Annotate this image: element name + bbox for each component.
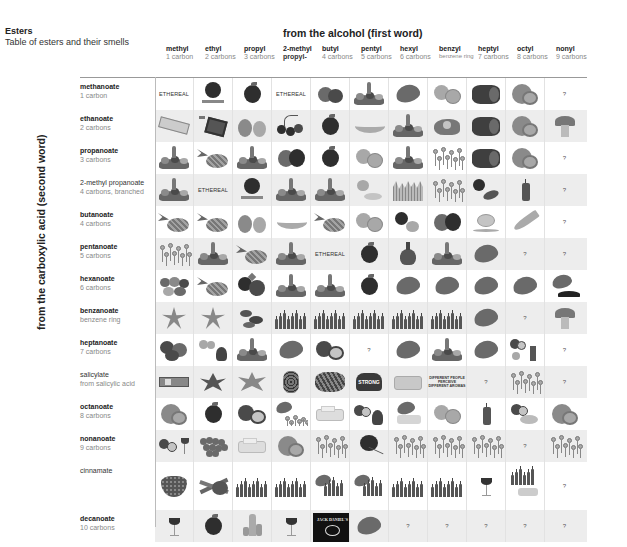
row-header: hexanoate6 carbons: [80, 270, 155, 302]
table-cell: [467, 430, 506, 462]
orange-icon: [508, 81, 542, 107]
apple-icon: [313, 145, 347, 171]
column-name: hexyl: [400, 45, 439, 53]
column-header-propyl: propyl3 carbons: [244, 45, 283, 75]
table-cell: [233, 430, 272, 462]
table-cell: [545, 398, 584, 430]
table-cell: [194, 366, 233, 398]
row-name: propanoate: [80, 146, 155, 155]
table-cell: [350, 174, 389, 206]
unknown-mark: ?: [367, 347, 370, 353]
flower-icon: [430, 113, 464, 139]
column-detail: 9 carbons: [556, 53, 595, 61]
bottles-icon: [430, 305, 464, 331]
column-axis-label: from the alcohol (first word): [283, 27, 422, 39]
table-cell: [233, 334, 272, 366]
peach-icon: [430, 81, 464, 107]
column-header-benzyl: benzylbenzene ring: [439, 45, 478, 75]
column-name: benzyl: [439, 45, 478, 53]
orange-icon: [274, 433, 308, 459]
plum-icon: [274, 145, 308, 171]
table-row-2-methyl-propanoate: 2-methyl propanoate4 carbons, branchedET…: [80, 174, 587, 206]
banana-icon: [352, 113, 386, 139]
pineapple-icon: [196, 209, 230, 235]
column-detail: benzene ring: [439, 53, 478, 60]
leaf-flowers-icon: [274, 401, 308, 427]
brandy-icon: [391, 241, 425, 267]
apple-icon: [313, 113, 347, 139]
table-cell: [233, 238, 272, 270]
wine-icon: [157, 513, 191, 539]
apple-icon: [235, 81, 269, 107]
column-detail: 4 carbons: [322, 53, 361, 61]
table-cell: [389, 430, 428, 462]
table-cell: [155, 430, 194, 462]
table-cell: ?: [467, 366, 506, 398]
table-cell: [155, 510, 194, 542]
leaf-icon: [391, 81, 425, 107]
unknown-mark: ?: [563, 523, 566, 529]
raspberry-icon: [313, 81, 347, 107]
table-cell: ?: [545, 366, 584, 398]
column-name: 2-methyl: [283, 45, 322, 53]
grass-icon: [391, 177, 425, 203]
melon-icon: [469, 81, 503, 107]
row-cells: [155, 270, 587, 302]
table-cell: [428, 334, 467, 366]
flowers-icon: [391, 433, 425, 459]
column-name: pentyl: [361, 45, 400, 53]
table-cell: [311, 366, 350, 398]
table-cell: [194, 206, 233, 238]
row-header: butanoate4 carbons: [80, 206, 155, 238]
column-headers: methyl1 carbonethyl2 carbonspropyl3 carb…: [166, 45, 595, 75]
table-cell: [272, 302, 311, 334]
table-cell: [194, 462, 233, 510]
row-name: heptanoate: [80, 338, 155, 347]
fruit-salad-icon: [391, 145, 425, 171]
pear-icon: [235, 209, 269, 235]
melon-icon: [469, 113, 503, 139]
fruit-salad-icon: [157, 145, 191, 171]
unknown-mark: ?: [445, 523, 448, 529]
table-cell: [506, 110, 545, 142]
ethereal-label: ETHEREAL: [315, 251, 345, 257]
table-cell: [428, 78, 467, 110]
leaf-icon: [352, 513, 386, 539]
table-cell: [155, 238, 194, 270]
dried-herbs-icon: [274, 369, 308, 395]
fruit-salad-icon: [157, 177, 191, 203]
fruit-salad-icon: [274, 177, 308, 203]
unknown-mark: ?: [484, 379, 487, 385]
row-header: 2-methyl propanoate4 carbons, branched: [80, 174, 155, 206]
table-cell: [194, 142, 233, 174]
row-header: propanoate3 carbons: [80, 142, 155, 174]
leaf-icon: [469, 241, 503, 267]
row-cells: JACK DANIEL'S?????: [155, 510, 587, 542]
unknown-mark: ?: [563, 251, 566, 257]
table-cell: [350, 78, 389, 110]
column-header-2-methyl: 2-methylpropyl-: [283, 45, 322, 75]
leaf-icon: [391, 273, 425, 299]
flowers-icon: [548, 433, 582, 459]
table-cell: [350, 110, 389, 142]
lily-icon: [157, 305, 191, 331]
ethereal-label: ETHEREAL: [159, 91, 189, 97]
soap-icon: [391, 369, 425, 395]
table-cell: [233, 110, 272, 142]
table-cell: [545, 110, 584, 142]
table-cell: [194, 110, 233, 142]
table-cell: [272, 510, 311, 542]
table-cell: [428, 430, 467, 462]
orange-icon: [508, 113, 542, 139]
table-cell: [272, 174, 311, 206]
row-detail: 6 carbons: [80, 283, 155, 292]
column-header-pentyl: pentyl5 carbons: [361, 45, 400, 75]
mushroom-icon: [548, 305, 582, 331]
table-row-ethanoate: ethanoate2 carbons: [80, 110, 587, 142]
table-cell: [350, 270, 389, 302]
table-cell: [506, 398, 545, 430]
row-cells: ?: [155, 142, 587, 174]
table-cell: [467, 398, 506, 430]
table-cell: [467, 206, 506, 238]
candle-icon: [469, 401, 503, 427]
